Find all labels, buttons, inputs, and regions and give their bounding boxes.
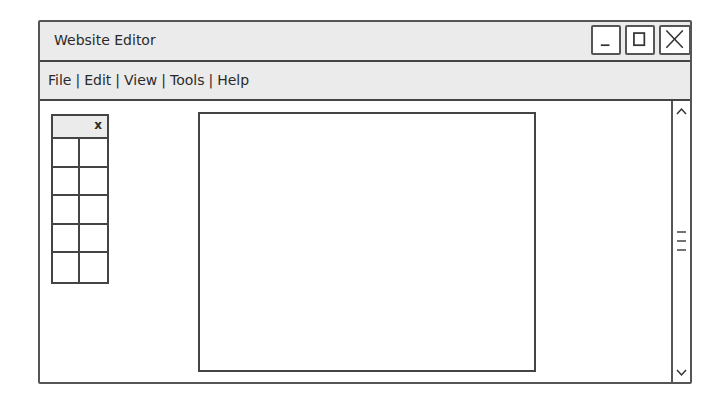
- minimize-icon: [593, 27, 619, 53]
- palette-tool-3[interactable]: [53, 168, 80, 197]
- maximize-icon: [627, 27, 653, 53]
- title-bar[interactable]: Website Editor: [40, 22, 690, 62]
- minimize-button[interactable]: [591, 25, 621, 55]
- palette-tool-1[interactable]: [53, 139, 80, 168]
- palette-grid: [53, 139, 107, 282]
- palette-tool-10[interactable]: [80, 253, 107, 282]
- chevron-down-icon: [674, 365, 689, 379]
- menu-item-edit[interactable]: Edit: [84, 72, 111, 88]
- maximize-button[interactable]: [625, 25, 655, 55]
- palette-tool-7[interactable]: [53, 225, 80, 254]
- palette-tool-8[interactable]: [80, 225, 107, 254]
- menu-item-view[interactable]: View: [124, 72, 157, 88]
- menu-item-help[interactable]: Help: [217, 72, 249, 88]
- vertical-scrollbar[interactable]: [671, 101, 690, 382]
- tool-palette: x: [51, 114, 109, 284]
- menu-bar: File|Edit|View|Tools|Help: [40, 62, 690, 101]
- editor-content-area: x: [40, 101, 690, 382]
- menu-separator: |: [161, 72, 166, 88]
- palette-header[interactable]: x: [53, 116, 107, 139]
- menu-separator: |: [75, 72, 80, 88]
- close-button[interactable]: [659, 25, 691, 55]
- palette-close-button[interactable]: x: [94, 118, 102, 132]
- menu-item-tools[interactable]: Tools: [170, 72, 205, 88]
- scroll-down-button[interactable]: [673, 364, 690, 380]
- menu-list: File|Edit|View|Tools|Help: [48, 72, 249, 88]
- palette-tool-5[interactable]: [53, 196, 80, 225]
- scroll-thumb[interactable]: [676, 229, 687, 253]
- menu-separator: |: [208, 72, 213, 88]
- grip-lines-icon: [676, 229, 687, 253]
- palette-tool-9[interactable]: [53, 253, 80, 282]
- palette-tool-6[interactable]: [80, 196, 107, 225]
- chevron-up-icon: [674, 104, 689, 118]
- palette-tool-4[interactable]: [80, 168, 107, 197]
- website-editor-window: Website Editor File|Edit|View|Tools|Help…: [38, 20, 692, 384]
- menu-item-file[interactable]: File: [48, 72, 71, 88]
- palette-tool-2[interactable]: [80, 139, 107, 168]
- menu-separator: |: [115, 72, 120, 88]
- window-title: Website Editor: [54, 32, 156, 48]
- page-canvas[interactable]: [198, 112, 536, 372]
- scroll-up-button[interactable]: [673, 103, 690, 119]
- close-icon: [661, 27, 689, 53]
